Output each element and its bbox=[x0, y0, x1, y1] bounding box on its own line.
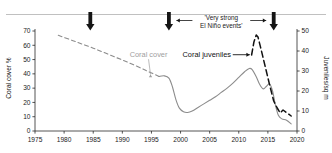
arrow-shaft bbox=[272, 12, 276, 24]
x-axis-tick-label: 2010 bbox=[231, 136, 246, 143]
x-axis-tick-label: 2020 bbox=[290, 136, 305, 143]
left-axis-tick-label: 20 bbox=[23, 99, 31, 106]
x-axis-tick-label: 1985 bbox=[86, 136, 101, 143]
x-axis-tick-label: 1975 bbox=[28, 136, 43, 143]
x-axis-tick-label: 1990 bbox=[115, 136, 130, 143]
right-axis-tick-label: 0 bbox=[302, 127, 306, 134]
left-axis-tick-label: 60 bbox=[23, 42, 31, 49]
coral-cover-callout-label: Coral cover bbox=[130, 50, 168, 59]
el-nino-label-line1: 'Very strong bbox=[205, 14, 239, 22]
right-axis-tick-label: 20 bbox=[302, 87, 310, 94]
chart-canvas: 010203040506070 01020304050 197519801985… bbox=[0, 0, 332, 153]
left-axis-tick-label: 10 bbox=[23, 113, 31, 120]
x-axis-tick-label: 2015 bbox=[261, 136, 276, 143]
coral-juveniles-callout-label: Coral juveniles bbox=[183, 50, 232, 59]
left-axis-tick-label: 0 bbox=[27, 127, 31, 134]
arrow-shaft bbox=[167, 12, 171, 24]
x-axis-tick-label: 2005 bbox=[202, 136, 217, 143]
right-axis-tick-label: 10 bbox=[302, 107, 310, 114]
left-axis-tick-label: 70 bbox=[23, 27, 31, 34]
left-axis-tick-label: 40 bbox=[23, 70, 31, 77]
arrow-shaft bbox=[88, 12, 92, 24]
el-nino-label-line2: El Niño events' bbox=[200, 22, 242, 29]
x-axis-tick-label: 1980 bbox=[57, 136, 72, 143]
left-axis-tick-label: 30 bbox=[23, 84, 31, 91]
x-axis-tick-label: 2000 bbox=[173, 136, 188, 143]
right-axis-tick-label: 50 bbox=[302, 27, 310, 34]
right-axis-title: Juveniles/sq m bbox=[322, 56, 330, 100]
left-axis-title: Coral cover % bbox=[5, 57, 12, 99]
left-axis-tick-label: 50 bbox=[23, 56, 31, 63]
right-axis-tick-label: 30 bbox=[302, 67, 310, 74]
coral-cover-chart-figure: 010203040506070 01020304050 197519801985… bbox=[0, 0, 332, 153]
right-axis-tick-label: 40 bbox=[302, 47, 310, 54]
x-axis-tick-label: 1995 bbox=[144, 136, 159, 143]
